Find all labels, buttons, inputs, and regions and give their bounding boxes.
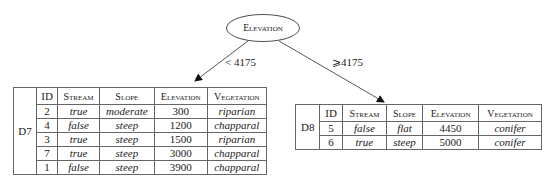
column-header-vegetation: Vegetation: [479, 105, 542, 122]
cell-elevation: 3000: [154, 147, 207, 161]
dataset-table-d8: D8 ID Stream Slope Elevation Vegetation …: [295, 104, 542, 150]
column-header-id: ID: [37, 88, 58, 105]
edge-label-less-than: < 4175: [225, 56, 256, 68]
cell-id: 1: [37, 161, 58, 175]
cell-vegetation: chapparal: [207, 161, 266, 175]
cell-stream: true: [58, 147, 100, 161]
cell-id: 6: [320, 136, 342, 150]
table-row: 5 false flat 4450 conifer: [296, 122, 542, 136]
root-node-label: Elevation: [243, 23, 283, 33]
table-row: 6 true steep 5000 conifer: [296, 136, 542, 150]
cell-id: 7: [37, 147, 58, 161]
cell-id: 3: [37, 133, 58, 147]
cell-stream: true: [342, 136, 386, 150]
dataset-name: D7: [14, 88, 37, 175]
column-header-slope: Slope: [99, 88, 154, 105]
cell-slope: steep: [99, 161, 154, 175]
cell-elevation: 5000: [423, 136, 479, 150]
cell-vegetation: conifer: [479, 136, 542, 150]
table-row: 2 true moderate 300 riparian: [14, 105, 267, 119]
cell-stream: false: [58, 161, 100, 175]
table-row: 7 true steep 3000 chapparal: [14, 147, 267, 161]
cell-vegetation: chapparal: [207, 119, 266, 133]
column-header-stream: Stream: [342, 105, 386, 122]
table-row: 4 false steep 1200 chapparal: [14, 119, 267, 133]
dataset-name: D8: [296, 105, 320, 150]
cell-slope: steep: [387, 136, 423, 150]
cell-stream: true: [58, 133, 100, 147]
cell-slope: moderate: [99, 105, 154, 119]
cell-slope: steep: [99, 133, 154, 147]
column-header-id: ID: [320, 105, 342, 122]
table-header-row: D8 ID Stream Slope Elevation Vegetation: [296, 105, 542, 122]
cell-vegetation: chapparal: [207, 147, 266, 161]
cell-id: 5: [320, 122, 342, 136]
column-header-elevation: Elevation: [423, 105, 479, 122]
cell-slope: steep: [99, 147, 154, 161]
root-node-elevation: Elevation: [226, 14, 300, 42]
cell-slope: steep: [99, 119, 154, 133]
edge-right-arrow: [279, 41, 384, 102]
column-header-slope: Slope: [387, 105, 423, 122]
cell-vegetation: conifer: [479, 122, 542, 136]
table-header-row: D7 ID Stream Slope Elevation Vegetation: [14, 88, 267, 105]
cell-elevation: 3900: [154, 161, 207, 175]
cell-elevation: 1500: [154, 133, 207, 147]
cell-id: 4: [37, 119, 58, 133]
column-header-elevation: Elevation: [154, 88, 207, 105]
cell-elevation: 4450: [423, 122, 479, 136]
dataset-table-d7: D7 ID Stream Slope Elevation Vegetation …: [13, 87, 267, 175]
cell-id: 2: [37, 105, 58, 119]
cell-elevation: 300: [154, 105, 207, 119]
cell-stream: false: [58, 119, 100, 133]
column-header-stream: Stream: [58, 88, 100, 105]
cell-stream: true: [58, 105, 100, 119]
cell-vegetation: riparian: [207, 133, 266, 147]
cell-vegetation: riparian: [207, 105, 266, 119]
cell-stream: false: [342, 122, 386, 136]
cell-elevation: 1200: [154, 119, 207, 133]
column-header-vegetation: Vegetation: [207, 88, 266, 105]
edge-label-greater-equal: ⩾4175: [332, 56, 363, 68]
table-row: 3 true steep 1500 riparian: [14, 133, 267, 147]
table-row: 1 false steep 3900 chapparal: [14, 161, 267, 175]
cell-slope: flat: [387, 122, 423, 136]
